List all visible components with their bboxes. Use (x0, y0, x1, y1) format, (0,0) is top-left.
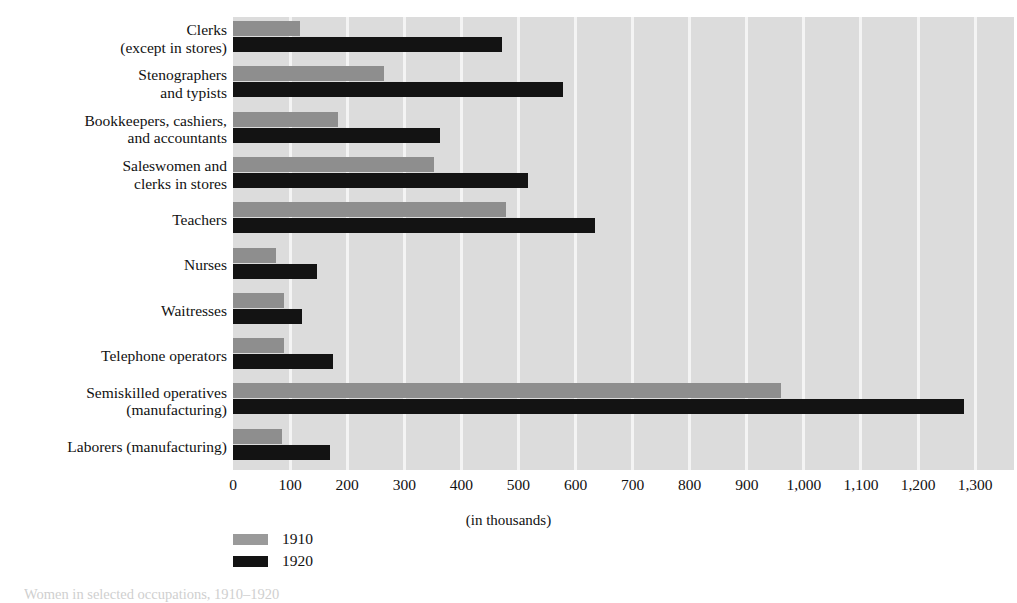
category-label-line: and typists (0, 84, 227, 102)
bar-rows (233, 17, 1014, 470)
bar-1910 (233, 202, 506, 217)
category-label: Semiskilled operatives(manufacturing) (0, 384, 227, 419)
x-axis-tick-labels: 01002003004005006007008009001,0001,1001,… (0, 476, 1017, 500)
bar-1920 (233, 128, 440, 143)
category-label-line: clerks in stores (0, 175, 227, 193)
category-axis-labels: Clerks(except in stores)Stenographersand… (0, 17, 227, 470)
figure-caption: Women in selected occupations, 1910–1920 (24, 586, 884, 603)
x-tick-label: 900 (735, 476, 758, 494)
bar-1920 (233, 82, 563, 97)
legend-label-1910: 1910 (282, 530, 313, 548)
category-label-line: Teachers (0, 211, 227, 229)
category-label: Telephone operators (0, 347, 227, 365)
category-label: Bookkeepers, cashiers,and accountants (0, 112, 227, 147)
bar-group (233, 108, 1014, 153)
bar-1910 (233, 66, 384, 81)
category-label-line: Stenographers (0, 66, 227, 84)
bar-1920 (233, 218, 595, 233)
legend-item-1910: 1910 (233, 528, 313, 550)
bar-1910 (233, 383, 781, 398)
bar-group (233, 289, 1014, 334)
category-label: Nurses (0, 256, 227, 274)
bar-group (233, 153, 1014, 198)
x-tick-label: 1,000 (786, 476, 821, 494)
x-tick-label: 1,100 (844, 476, 879, 494)
category-label: Saleswomen andclerks in stores (0, 157, 227, 192)
bar-1910 (233, 21, 300, 36)
bar-group (233, 334, 1014, 379)
x-tick-label: 700 (621, 476, 644, 494)
bar-1920 (233, 354, 333, 369)
legend-item-1920: 1920 (233, 550, 313, 572)
bar-1920 (233, 264, 317, 279)
category-label-line: Laborers (manufacturing) (0, 438, 227, 456)
gray-swatch-icon (233, 534, 268, 545)
x-tick-label: 800 (678, 476, 701, 494)
bar-1920 (233, 399, 964, 414)
x-tick-label: 400 (450, 476, 473, 494)
bar-group (233, 62, 1014, 107)
x-tick-label: 0 (229, 476, 237, 494)
category-label: Stenographersand typists (0, 66, 227, 101)
x-tick-label: 300 (393, 476, 416, 494)
x-tick-label: 600 (564, 476, 587, 494)
category-label-line: Saleswomen and (0, 157, 227, 175)
category-label-line: Telephone operators (0, 347, 227, 365)
x-axis-title: (in thousands) (0, 512, 1017, 529)
x-tick-label: 100 (278, 476, 301, 494)
bar-1910 (233, 248, 276, 263)
bar-group (233, 379, 1014, 424)
category-label: Laborers (manufacturing) (0, 438, 227, 456)
category-label: Teachers (0, 211, 227, 229)
x-tick-label: 1,300 (958, 476, 993, 494)
bar-group (233, 17, 1014, 62)
category-label-line: (except in stores) (0, 39, 227, 57)
black-swatch-icon (233, 556, 268, 567)
bar-group (233, 244, 1014, 289)
bar-1910 (233, 112, 338, 127)
x-tick-label: 1,200 (901, 476, 936, 494)
category-label-line: Bookkeepers, cashiers, (0, 112, 227, 130)
chart-legend: 1910 1920 (233, 528, 313, 572)
category-label-line: Nurses (0, 256, 227, 274)
x-tick-label: 200 (336, 476, 359, 494)
bar-1910 (233, 157, 434, 172)
bar-1910 (233, 293, 284, 308)
category-label-line: Waitresses (0, 302, 227, 320)
bar-1910 (233, 338, 284, 353)
bar-1910 (233, 429, 282, 444)
x-tick-label: 500 (507, 476, 530, 494)
legend-label-1920: 1920 (282, 552, 313, 570)
category-label-line: Semiskilled operatives (0, 384, 227, 402)
bar-group (233, 198, 1014, 243)
category-label-line: Clerks (0, 21, 227, 39)
bar-group (233, 425, 1014, 470)
bar-1920 (233, 445, 330, 460)
bar-1920 (233, 173, 528, 188)
category-label-line: (manufacturing) (0, 401, 227, 419)
category-label: Waitresses (0, 302, 227, 320)
bar-1920 (233, 309, 302, 324)
bar-1920 (233, 37, 502, 52)
category-label: Clerks(except in stores) (0, 21, 227, 56)
category-label-line: and accountants (0, 129, 227, 147)
